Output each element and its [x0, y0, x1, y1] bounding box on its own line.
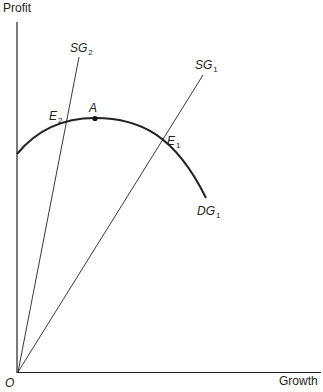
e1-label-main: E: [167, 134, 175, 148]
e1-label: E1: [167, 134, 180, 150]
dg1-label: DG1: [197, 204, 220, 220]
y-axis-label: Profit: [3, 1, 31, 15]
point-a-marker: [92, 116, 97, 121]
e2-label-main: E: [49, 109, 57, 123]
dg1-label-sub: 1: [216, 211, 220, 220]
sg1-label: SG1: [195, 58, 218, 74]
sg1-label-main: SG: [195, 58, 212, 72]
dg1-label-main: DG: [197, 204, 215, 218]
origin-label: O: [5, 376, 14, 390]
x-axis-label: Growth: [279, 374, 318, 388]
e1-label-sub: 1: [176, 141, 180, 150]
e2-label-sub: 2: [58, 116, 62, 125]
e2-label: E2: [49, 109, 62, 125]
sg2-label: SG2: [70, 41, 93, 57]
sg1-label-sub: 1: [213, 65, 217, 74]
point-a-label: A: [89, 101, 97, 115]
sg2-line: [18, 57, 79, 372]
sg2-label-main: SG: [70, 41, 87, 55]
growth-profit-diagram: [0, 0, 323, 392]
sg2-label-sub: 2: [88, 48, 92, 57]
dg1-curve: [17, 118, 206, 198]
